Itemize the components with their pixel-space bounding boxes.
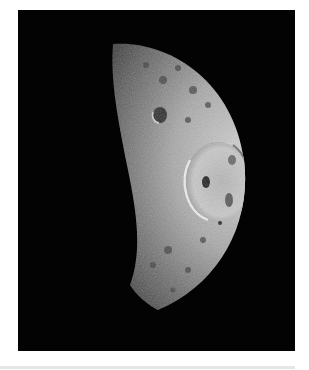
divider-line bbox=[0, 366, 295, 369]
moon-illustration bbox=[18, 10, 295, 351]
moon-photo: Crescent-lit cratered moon with a large … bbox=[18, 10, 295, 351]
